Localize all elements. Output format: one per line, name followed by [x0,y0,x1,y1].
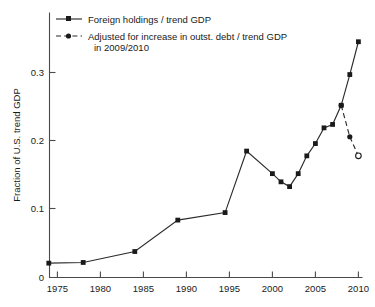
data-point [322,125,327,130]
y-tick-label-2: 0.2 [31,135,44,146]
data-point [287,184,292,189]
data-point [46,261,51,266]
chart-svg: 0.3 0.2 0.1 0 Fraction of U.S. trend GDP… [0,0,375,307]
data-point [244,149,249,154]
x-tick-label-2010: 2010 [348,283,369,294]
series-line-1 [341,105,358,156]
legend-marker-square [66,16,71,21]
data-point [175,218,180,223]
data-point [304,153,309,158]
data-point [339,103,344,108]
chart-container: 0.3 0.2 0.1 0 Fraction of U.S. trend GDP… [0,0,375,307]
data-point [330,122,335,127]
legend-marker-dot [66,33,71,38]
data-point [356,153,362,159]
legend-label-1-line2: in 2009/2010 [94,42,149,53]
data-point [223,210,228,215]
legend-label-1-line1: Adjusted for increase in outst. debt / t… [88,31,287,42]
data-point [347,134,352,139]
plot-series-layer [46,39,361,265]
x-tick-label-2000: 2000 [262,283,283,294]
data-point [81,260,86,265]
y-tick-label-3: 0.3 [31,67,44,78]
series-line-0 [49,42,359,263]
data-point [313,141,318,146]
data-point [356,39,361,44]
x-tick-label-1985: 1985 [133,283,154,294]
y-axis-ticks [50,73,56,209]
legend-label-0: Foreign holdings / trend GDP [88,14,211,25]
y-tick-label-1: 0.1 [31,203,44,214]
x-tick-label-1990: 1990 [176,283,197,294]
data-point [279,179,284,184]
y-tick-label-0: 0 [39,272,44,283]
legend: Foreign holdings / trend GDP Adjusted fo… [56,14,287,53]
data-point [296,171,301,176]
data-point [347,72,352,77]
data-point [132,249,137,254]
x-tick-label-1980: 1980 [90,283,111,294]
x-tick-label-1995: 1995 [219,283,240,294]
data-point [270,171,275,176]
y-axis-title: Fraction of U.S. trend GDP [11,88,22,202]
x-axis-ticks [57,272,358,278]
x-tick-label-1975: 1975 [47,283,68,294]
x-tick-label-2005: 2005 [305,283,326,294]
